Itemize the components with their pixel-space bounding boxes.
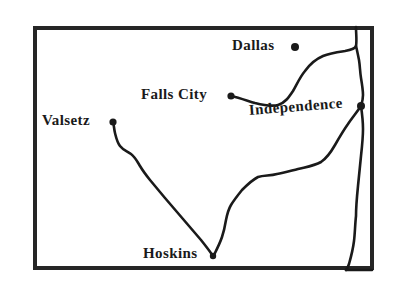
map-container: Dallas Falls City Independence Valsetz H… — [0, 0, 397, 288]
map-frame-border — [35, 28, 372, 268]
road-north-border-to-independence — [356, 46, 363, 106]
city-dot-dallas[interactable] — [291, 43, 299, 51]
city-label-falls-city: Falls City — [141, 87, 207, 102]
city-dot-independence[interactable] — [357, 102, 365, 110]
city-label-valsetz: Valsetz — [42, 113, 90, 128]
city-dot-valsetz[interactable] — [109, 118, 116, 125]
city-label-hoskins: Hoskins — [143, 246, 198, 261]
map-drawing — [0, 0, 397, 288]
city-dot-hoskins[interactable] — [210, 253, 216, 259]
road-independence-to-hoskins — [214, 106, 361, 255]
city-label-dallas: Dallas — [232, 38, 274, 53]
road-independence-to-south-border — [346, 106, 363, 270]
city-dot-falls-city[interactable] — [227, 92, 234, 99]
road-hoskins-to-valsetz — [113, 122, 213, 256]
